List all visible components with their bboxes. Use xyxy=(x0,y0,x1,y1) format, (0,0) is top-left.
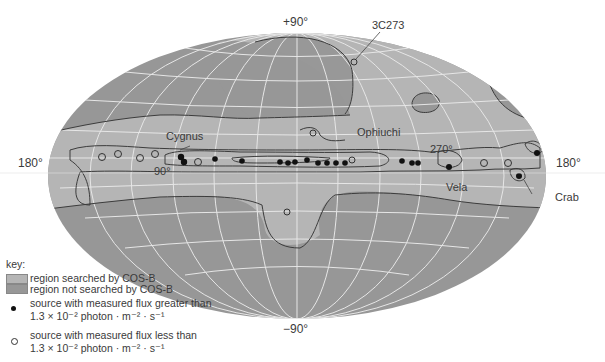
legend-not-searched: region not searched by COS-B xyxy=(30,284,173,296)
filled-dot-icon xyxy=(11,306,16,311)
legend-less-1: source with measured flux less than xyxy=(30,330,197,342)
label-left-180: 180° xyxy=(18,157,43,169)
legend-greater-1: source with measured flux greater than xyxy=(30,298,212,310)
swatch-searched xyxy=(6,274,28,284)
open-dot-icon xyxy=(11,338,18,345)
label-south-pole: −90° xyxy=(283,323,308,335)
label-3c273: 3C273 xyxy=(372,20,404,31)
label-lon-90: 90° xyxy=(154,166,171,177)
label-cygnus: Cygnus xyxy=(166,131,203,142)
label-north-pole: +90° xyxy=(283,16,308,28)
label-lon-270: 270° xyxy=(430,144,453,155)
label-vela: Vela xyxy=(446,182,467,193)
legend-title: key: xyxy=(6,258,25,270)
label-ophiuchi: Ophiuchi xyxy=(357,127,400,138)
swatch-not-searched xyxy=(6,284,28,294)
legend-greater-2: 1.3 × 10⁻² photon · m⁻² · s⁻¹ xyxy=(30,311,164,323)
legend-less-2: 1.3 × 10⁻² photon · m⁻² · s⁻¹ xyxy=(30,343,164,355)
label-right-180: 180° xyxy=(556,157,581,169)
label-crab: Crab xyxy=(555,192,579,203)
